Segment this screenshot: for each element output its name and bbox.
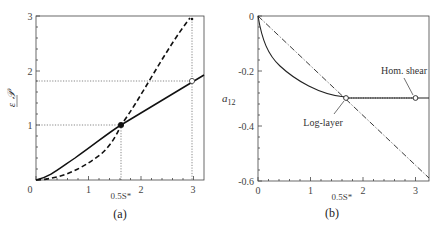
panel-a-marker-top	[191, 18, 194, 21]
panel-b-solid-curve	[258, 16, 429, 98]
panel-a-x-ticks	[36, 176, 194, 180]
panel-b-ytick-neg0.4: -0.4	[238, 121, 254, 132]
panel-a-marker-log-layer	[118, 122, 124, 128]
panel-a-ylabel-den: ε	[5, 102, 17, 107]
panel-a-ytick-1: 1	[28, 120, 33, 131]
panel-b-marker-hom-shear	[413, 96, 418, 101]
panel-b-marker-log-layer	[344, 96, 349, 101]
panel-b-ylabel-sub: 12	[228, 98, 236, 107]
panel-b-ylabel: a12	[222, 92, 236, 107]
panel-a-ylabel-num: 𝒫	[5, 88, 17, 99]
panel-a-label: (a)	[113, 207, 126, 221]
panel-a-xtick-1: 1	[86, 184, 91, 195]
panel-b-xtick-0: 0	[256, 185, 261, 196]
panel-a-xtick-0: 0	[28, 184, 33, 195]
panel-b-ytick-neg0.6: -0.6	[238, 176, 254, 187]
panel-a-special-tick: 0.5S*	[111, 191, 132, 201]
panel-b-xtick-3: 3	[413, 185, 418, 196]
panel-b-annotation-log-layer: Log-layer	[303, 117, 343, 128]
panel-a-dashed-curve	[36, 18, 190, 180]
panel-b-label: (b)	[325, 206, 339, 220]
panel-a-ytick-3: 3	[28, 11, 33, 22]
panel-b-annotation-hom-shear: Hom. shear	[381, 65, 428, 76]
panel-b-special-tick: 0.5S*	[332, 192, 353, 202]
panel-a-ylabel: ε 𝒫	[5, 88, 17, 107]
panel-a: 3 2 1 0 1 2 3 0.5S* ε 𝒫 (a)	[5, 11, 204, 221]
panel-b-y-ticks	[258, 16, 262, 181]
panel-b-hom-shear-leader	[404, 78, 413, 95]
figure: 3 2 1 0 1 2 3 0.5S* ε 𝒫 (a)	[0, 0, 438, 234]
panel-b-xtick-2: 2	[361, 185, 366, 196]
panel-b-log-layer-leader	[334, 101, 344, 114]
panel-a-frame	[36, 16, 204, 180]
panel-b: Log-layer Hom. shear 0 -0.2 -0.4 -0.6 0 …	[222, 11, 429, 220]
panel-a-y-ticks	[36, 16, 40, 169]
panel-a-reference-lines	[36, 19, 192, 180]
panel-b-x-ticks	[258, 177, 416, 181]
panel-a-xtick-3: 3	[191, 184, 196, 195]
panel-a-marker-hom-shear	[189, 78, 194, 83]
panel-a-ytick-2: 2	[28, 66, 33, 77]
panel-b-ytick-neg0.2: -0.2	[238, 66, 254, 77]
panel-a-xtick-2: 2	[139, 184, 144, 195]
panel-b-ytick-0: 0	[249, 11, 254, 22]
panel-b-xtick-1: 1	[308, 185, 313, 196]
